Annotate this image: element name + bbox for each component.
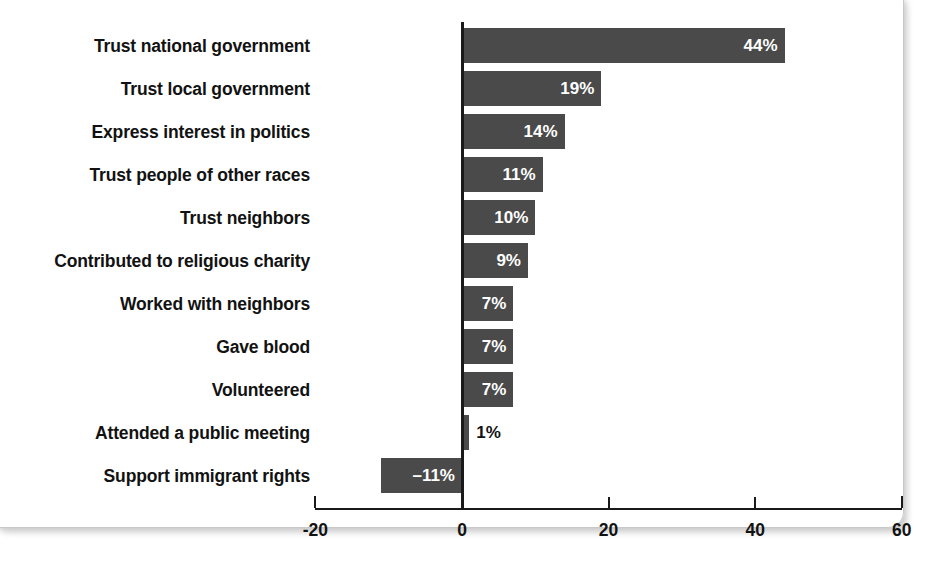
- bar-value-label: 11%: [503, 157, 536, 192]
- bar: 7%: [462, 372, 513, 407]
- category-label: Support immigrant rights: [0, 468, 310, 486]
- bar: –11%: [381, 458, 462, 493]
- bar-value-label: 7%: [482, 286, 507, 321]
- x-axis-tick-label: 40: [745, 522, 764, 540]
- x-axis-tick-label: 60: [892, 522, 911, 540]
- x-axis-tick: [314, 496, 316, 508]
- bar-value-label: 7%: [482, 329, 507, 364]
- x-axis-tick: [754, 497, 756, 508]
- category-label: Contributed to religious charity: [0, 253, 310, 271]
- x-axis-tick: [608, 497, 610, 508]
- x-axis-tick-label: -20: [303, 522, 328, 540]
- category-label: Express interest in politics: [0, 124, 310, 142]
- category-label: Trust national government: [0, 38, 310, 56]
- bar-value-label: 19%: [560, 71, 594, 106]
- x-axis-tick-label: 20: [599, 522, 618, 540]
- x-axis-line: [315, 508, 901, 510]
- bar-value-label: 10%: [494, 200, 528, 235]
- category-label: Trust people of other races: [0, 167, 310, 185]
- bar-value-label: –11%: [412, 458, 455, 493]
- bar: 7%: [462, 329, 513, 364]
- x-axis-tick-label: 0: [457, 522, 467, 540]
- bar-value-label: 7%: [482, 372, 507, 407]
- category-label: Trust neighbors: [0, 210, 310, 228]
- category-label: Gave blood: [0, 339, 310, 357]
- bar: 14%: [462, 114, 565, 149]
- bar-value-label: 9%: [496, 243, 521, 278]
- category-label: Worked with neighbors: [0, 296, 310, 314]
- bar: 11%: [462, 157, 543, 192]
- chart-figure: Trust national government44%Trust local …: [0, 0, 952, 583]
- zero-axis-line: [461, 22, 464, 508]
- x-axis-tick: [901, 496, 903, 508]
- bar-chart-plot-area: Trust national government44%Trust local …: [0, 0, 952, 583]
- bar: 19%: [462, 71, 601, 106]
- bar: 7%: [462, 286, 513, 321]
- category-label: Volunteered: [0, 382, 310, 400]
- bar-value-label: 1%: [476, 415, 501, 450]
- bar: 9%: [462, 243, 528, 278]
- bar-value-label: 44%: [743, 28, 777, 63]
- category-label: Trust local government: [0, 81, 310, 99]
- bar: 10%: [462, 200, 535, 235]
- bar: 44%: [462, 28, 785, 63]
- bar-value-label: 14%: [524, 114, 558, 149]
- category-label: Attended a public meeting: [0, 425, 310, 443]
